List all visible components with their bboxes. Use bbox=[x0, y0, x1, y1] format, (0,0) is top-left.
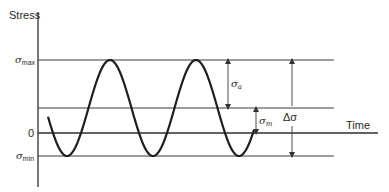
zero-label: 0 bbox=[28, 127, 34, 139]
range-label: Δσ bbox=[283, 111, 297, 123]
min-stress-label: σmin bbox=[16, 150, 34, 162]
max-stress-label: σmax bbox=[15, 54, 36, 66]
stress-axis-label: Stress bbox=[9, 9, 41, 21]
amplitude-label: σa bbox=[231, 78, 242, 91]
mean-label: σm bbox=[259, 115, 273, 128]
stress-cycle-diagram: Stress σmax 0 σmin Time σa σm Δσ bbox=[0, 0, 389, 192]
time-axis-label: Time bbox=[346, 119, 370, 131]
